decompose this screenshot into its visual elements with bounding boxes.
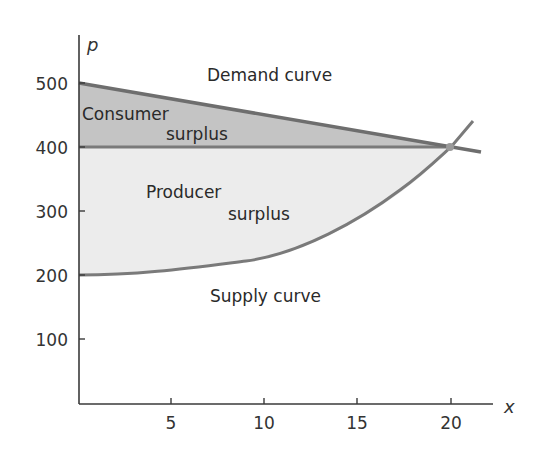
y-tick-label-300: 300 — [36, 202, 68, 222]
x-tick-label-5: 5 — [166, 413, 177, 433]
demand-curve-label: Demand curve — [207, 65, 332, 85]
x-tick-label-15: 15 — [346, 413, 368, 433]
y-tick-label-100: 100 — [36, 330, 68, 350]
y-tick-label-500: 500 — [36, 74, 68, 94]
x-axis-label: x — [503, 396, 515, 417]
consumer-surplus-label-line2: surplus — [166, 124, 228, 144]
surplus-chart: 500 400 300 200 100 5 10 15 20 p x Deman… — [0, 0, 540, 459]
consumer-surplus-label-line1: Consumer — [82, 104, 169, 124]
equilibrium-point — [446, 143, 454, 151]
x-tick-label-20: 20 — [440, 413, 462, 433]
producer-surplus-label-line2: surplus — [228, 204, 290, 224]
producer-surplus-label-line1: Producer — [146, 182, 221, 202]
supply-curve-label: Supply curve — [210, 286, 321, 306]
y-axis-label: p — [86, 34, 98, 55]
y-tick-label-200: 200 — [36, 266, 68, 286]
y-tick-label-400: 400 — [36, 138, 68, 158]
x-ticks — [171, 398, 451, 404]
x-tick-label-10: 10 — [253, 413, 275, 433]
